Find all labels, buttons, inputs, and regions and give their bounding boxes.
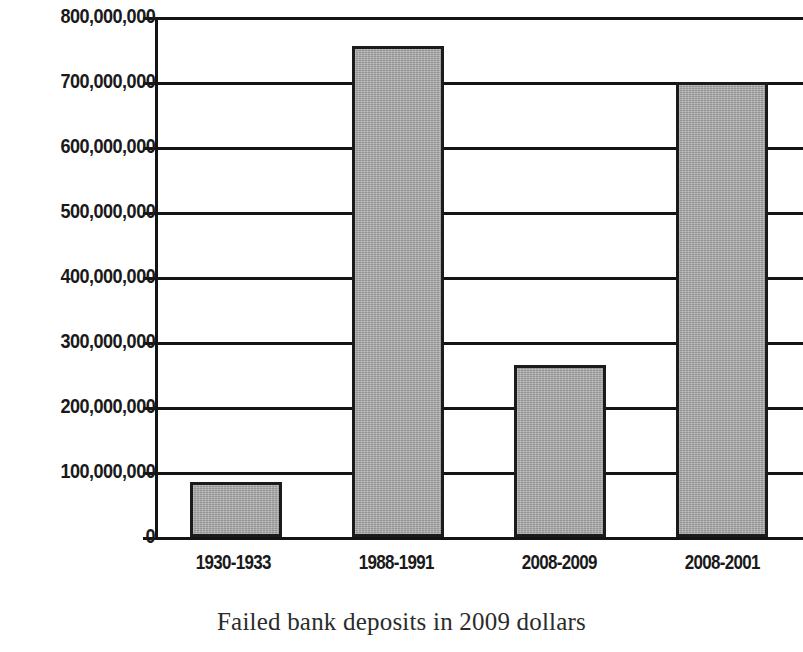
xtick-label-3: 2008-2009 — [486, 552, 632, 572]
ytick-label-400m: 400,000,000 — [60, 265, 155, 286]
ytick-label-700m: 700,000,000 — [60, 70, 155, 91]
xtick-label-1: 1930-1933 — [160, 552, 306, 572]
ytick-label-800m: 800,000,000 — [60, 5, 155, 26]
ytick-label-100m: 100,000,000 — [60, 460, 155, 481]
xtick-label-2-text: 1988-1991 — [358, 552, 433, 572]
plot-area: 800,000,000 700,000,000 600,000,000 500,… — [0, 0, 803, 560]
xtick-label-1-text: 1930-1933 — [195, 552, 270, 572]
ytick-label-300m: 300,000,000 — [60, 330, 155, 351]
bar-2008-2009 — [514, 365, 606, 537]
xtick-label-3-text: 2008-2009 — [521, 552, 596, 572]
gridline-800m — [155, 17, 803, 20]
bar-chart-figure: 800,000,000 700,000,000 600,000,000 500,… — [0, 0, 803, 652]
ytick-label-200m: 200,000,000 — [60, 395, 155, 416]
xtick-label-4: 2008-2001 — [649, 552, 795, 572]
xtick-label-4-text: 2008-2001 — [684, 552, 759, 572]
xtick-label-2: 1988-1991 — [323, 552, 469, 572]
ytick-label-600m: 600,000,000 — [60, 135, 155, 156]
axis-baseline-zero — [155, 537, 803, 540]
ytick-label-500m: 500,000,000 — [60, 200, 155, 221]
bar-1988-1991 — [352, 46, 444, 537]
bar-1930-1933 — [190, 482, 282, 537]
bar-2008-2001 — [676, 82, 768, 537]
ytick-label-0: 0 — [145, 525, 155, 546]
figure-caption: Failed bank deposits in 2009 dollars — [0, 608, 803, 636]
